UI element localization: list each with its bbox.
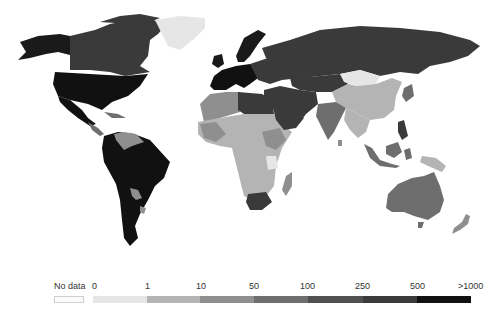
legend-tick-3: 50 bbox=[249, 281, 259, 291]
region-philippines bbox=[398, 120, 408, 140]
legend-bin-4 bbox=[308, 296, 363, 303]
legend-bin-3 bbox=[254, 296, 308, 303]
legend-nodata-label: No data bbox=[54, 281, 86, 291]
region-tasmania bbox=[418, 222, 424, 228]
legend-bin-5 bbox=[363, 296, 417, 303]
legend-tick-7: >1000 bbox=[458, 281, 483, 291]
legend-nodata-swatch bbox=[54, 296, 84, 303]
region-australia bbox=[386, 172, 444, 220]
legend-tick-2: 10 bbox=[196, 281, 206, 291]
region-caribbean bbox=[104, 112, 126, 118]
legend-bin-6 bbox=[417, 296, 471, 303]
region-alaska bbox=[18, 34, 70, 60]
region-south-america bbox=[102, 132, 170, 246]
legend-bin-2 bbox=[200, 296, 254, 303]
legend-bin-0 bbox=[93, 296, 147, 303]
region-sri-lanka bbox=[338, 140, 342, 146]
region-madagascar bbox=[282, 172, 292, 196]
legend-tick-5: 250 bbox=[355, 281, 370, 291]
region-sulawesi bbox=[404, 148, 412, 160]
legend-bin-1 bbox=[147, 296, 200, 303]
region-india bbox=[316, 102, 346, 140]
region-japan bbox=[402, 84, 414, 102]
region-uruguay bbox=[140, 206, 146, 214]
region-scandinavia bbox=[236, 30, 266, 62]
region-canada bbox=[70, 18, 165, 76]
legend-tick-6: 500 bbox=[410, 281, 425, 291]
region-uk bbox=[212, 54, 224, 68]
region-new-zealand bbox=[452, 214, 470, 234]
legend-tick-4: 100 bbox=[300, 281, 315, 291]
region-south-africa bbox=[246, 192, 272, 210]
world-map bbox=[0, 0, 502, 260]
region-greenland bbox=[155, 16, 205, 50]
region-tanzania bbox=[266, 156, 278, 170]
region-russia bbox=[262, 26, 480, 80]
region-new-guinea bbox=[420, 156, 446, 172]
legend-tick-0: 0 bbox=[92, 281, 97, 291]
region-central-america bbox=[88, 122, 104, 136]
region-borneo bbox=[386, 142, 402, 158]
legend-tick-1: 1 bbox=[145, 281, 150, 291]
